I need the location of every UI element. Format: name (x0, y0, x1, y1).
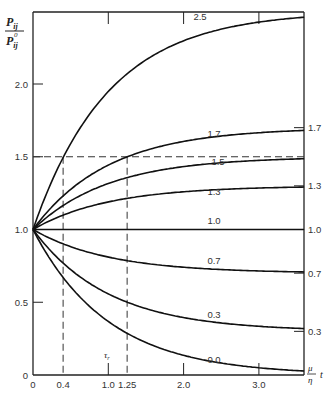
curve-2.5 (33, 17, 304, 229)
svg-text:Pij: Pij (6, 15, 19, 31)
curve-label: 0.0 (207, 354, 220, 365)
svg-text:τr: τr (104, 350, 110, 361)
curve-label: 2.5 (193, 11, 206, 22)
y-tick-label: 1.0 (15, 224, 28, 235)
right-tick-label: 0.3 (308, 326, 321, 337)
x-tick-label: 1.0 (102, 379, 115, 390)
curve-0.7 (33, 230, 304, 273)
y-tick-label: 0 (23, 370, 28, 381)
curve-label: 1.3 (207, 186, 220, 197)
y-tick-label: 0.5 (15, 297, 28, 308)
right-tick-label: 1.0 (308, 224, 321, 235)
curve-label: 1.0 (207, 215, 220, 226)
x-tick-label: 0 (30, 379, 35, 390)
curve-1.5 (33, 159, 304, 230)
svg-text:μ: μ (307, 363, 313, 373)
curves (33, 17, 304, 371)
y-tick-label: 2.0 (15, 79, 28, 90)
curve-1.3 (33, 187, 304, 230)
x-tick-label: 0.4 (57, 379, 70, 390)
curve-label: 0.3 (207, 309, 220, 320)
curve-0.0 (33, 230, 304, 372)
x-tick-label: 3.0 (252, 379, 265, 390)
labels: 00.41.01.252.03.000.51.01.52.01.71.31.00… (15, 11, 321, 390)
curve-label: 0.7 (207, 255, 220, 266)
curve-1.7 (33, 130, 304, 229)
curve-label: 1.5 (211, 156, 224, 167)
tau-r-annotation: τr (104, 350, 110, 361)
relaxation-chart: 00.41.01.252.03.000.51.01.52.01.71.31.00… (0, 0, 336, 402)
x-tick-label: 1.25 (118, 379, 137, 390)
right-tick-label: 0.7 (308, 268, 321, 279)
svg-text:t: t (320, 369, 323, 380)
x-axis-label: μ η t (307, 363, 323, 385)
right-tick-label: 1.7 (308, 122, 321, 133)
svg-text:η: η (308, 375, 313, 385)
right-tick-label: 1.3 (308, 180, 321, 191)
svg-text:0: 0 (14, 31, 18, 39)
y-axis-label: Pij Pij 0 (5, 15, 24, 50)
curve-0.3 (33, 230, 304, 329)
y-tick-label: 1.5 (15, 151, 28, 162)
x-tick-label: 2.0 (177, 379, 190, 390)
curve-label: 1.7 (207, 128, 220, 139)
